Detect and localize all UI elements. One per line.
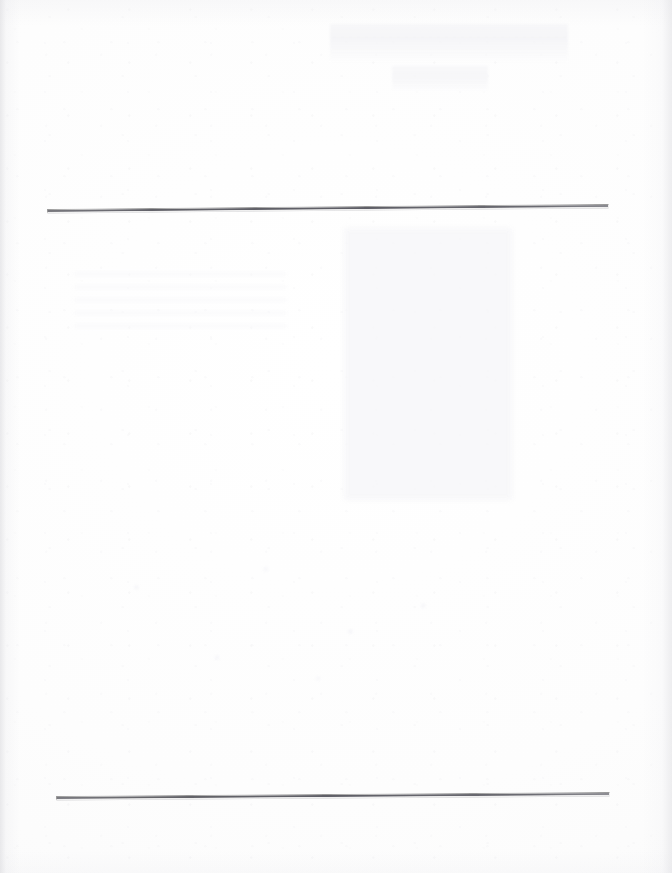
paper-surface [0,0,672,873]
scanned-page [0,0,672,873]
